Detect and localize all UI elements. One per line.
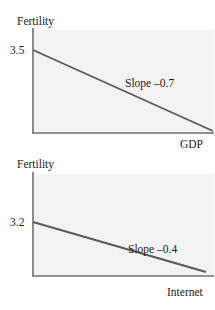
- y-axis-label-bottom: Fertility: [17, 158, 54, 171]
- plot-area-background-top: [33, 30, 214, 133]
- figure-container: Fertility 3.5 Slope –0.7 GDP Fertility 3…: [0, 0, 215, 310]
- y-tick-label-top: 3.5: [10, 44, 25, 56]
- chart-svg-bottom: Fertility 3.2 Slope –0.4 Internet: [0, 155, 215, 310]
- chart-fertility-vs-gdp: Fertility 3.5 Slope –0.7 GDP: [0, 0, 215, 155]
- slope-annotation-top: Slope –0.7: [125, 77, 174, 90]
- y-axis-label-top: Fertility: [17, 15, 54, 28]
- x-axis-label-bottom: Internet: [167, 286, 204, 298]
- chart-svg-top: Fertility 3.5 Slope –0.7 GDP: [0, 0, 215, 155]
- slope-annotation-bottom: Slope –0.4: [128, 243, 177, 256]
- chart-fertility-vs-internet: Fertility 3.2 Slope –0.4 Internet: [0, 155, 215, 310]
- plot-area-background-bottom: [33, 174, 214, 276]
- y-tick-label-bottom: 3.2: [10, 216, 25, 228]
- x-axis-label-top: GDP: [180, 138, 203, 150]
